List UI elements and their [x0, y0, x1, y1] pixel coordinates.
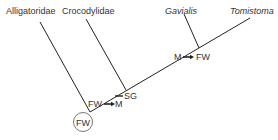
alligatoridae-branch — [40, 22, 90, 112]
taxon-label-crocodylidae: Crocodylidae — [62, 6, 115, 16]
taxon-label-tomistoma: Tomistoma — [230, 6, 274, 16]
transition-2-arrowhead-icon — [190, 55, 194, 59]
node-label-sg: SG — [124, 91, 137, 101]
taxon-label-gavialis: Gavialis — [165, 6, 198, 16]
transition-1-from-label: FW — [88, 99, 102, 109]
root-state-label: FW — [76, 118, 90, 128]
phylogeny-diagram: Alligatoridae Crocodylidae Gavialis Tomi… — [0, 0, 278, 140]
taxon-label-alligatoridae: Alligatoridae — [6, 6, 56, 16]
main-spine-branch — [90, 18, 250, 112]
transition-1-to-label: M — [115, 99, 123, 109]
transition-2-from-label: M — [174, 52, 182, 62]
gavialis-branch — [184, 14, 199, 48]
transition-2-to-label: FW — [196, 52, 210, 62]
crocodylidae-branch — [86, 19, 126, 90]
